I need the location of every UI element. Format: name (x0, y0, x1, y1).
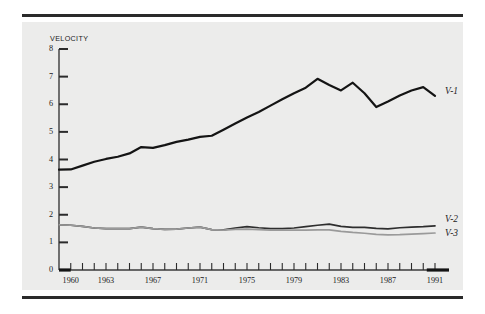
chart-panel: VELOCITY 876543210 196019631967197119751… (22, 22, 463, 290)
y-tick-label: 4 (39, 155, 53, 164)
x-tick-label: 1967 (138, 276, 168, 285)
y-tick-label: 6 (39, 99, 53, 108)
y-tick-label: 8 (39, 44, 53, 53)
x-tick-label: 1983 (326, 276, 356, 285)
series-layer (59, 79, 435, 235)
x-tick-label: 1975 (232, 276, 262, 285)
x-tick-label: 1987 (373, 276, 403, 285)
y-tick-label: 1 (39, 237, 53, 246)
series-label-v-3: V-3 (445, 228, 458, 238)
x-tick-label: 1971 (185, 276, 215, 285)
series-label-v-1: V-1 (445, 86, 458, 96)
y-tick-label: 0 (39, 265, 53, 274)
chart-plot-area (22, 22, 463, 290)
y-tick-label: 5 (39, 127, 53, 136)
x-tick-label: 1963 (91, 276, 121, 285)
y-tick-label: 3 (39, 182, 53, 191)
series-label-v-2: V-2 (445, 214, 458, 224)
axis-layer (59, 49, 449, 270)
y-tick-label: 7 (39, 72, 53, 81)
series-line-v-1 (59, 79, 435, 170)
y-tick-label: 2 (39, 210, 53, 219)
figure-container: VELOCITY 876543210 196019631967197119751… (0, 0, 485, 314)
x-tick-label: 1960 (56, 276, 86, 285)
x-tick-label: 1991 (420, 276, 450, 285)
x-tick-label: 1979 (279, 276, 309, 285)
bottom-rule (22, 296, 463, 299)
top-rule (22, 14, 463, 17)
